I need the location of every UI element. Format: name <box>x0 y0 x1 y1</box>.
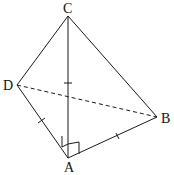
vertex-label-A: A <box>64 160 75 175</box>
edge-CD <box>17 16 68 85</box>
edge-DB-hidden <box>17 85 157 117</box>
edge-AB <box>68 117 157 158</box>
vertex-label-D: D <box>3 78 13 93</box>
tetrahedron-diagram: C D B A <box>0 0 174 175</box>
edge-DA <box>17 85 68 158</box>
vertex-label-B: B <box>161 111 170 126</box>
edge-CB <box>68 16 157 117</box>
right-angle-mark-DAC <box>62 136 68 147</box>
tick-mark-DA <box>38 118 45 123</box>
right-angle-mark-CAB <box>68 142 79 154</box>
vertex-label-C: C <box>63 1 72 16</box>
